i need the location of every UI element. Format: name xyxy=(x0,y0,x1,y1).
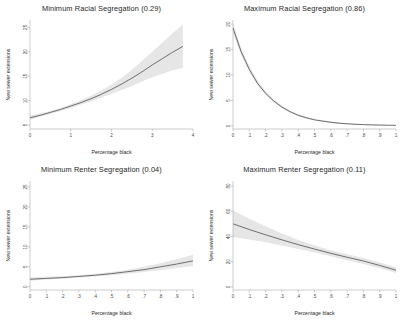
y-tick-label: 20 xyxy=(226,21,231,27)
x-tick-label: 1 xyxy=(69,133,72,138)
x-tick-label: .7 xyxy=(142,294,146,299)
plot-area: 0.1.2.3.4.5.6.7.8.9105101520Percentage b… xyxy=(203,0,406,161)
y-tick-label: 20 xyxy=(23,49,28,55)
x-tick-label: .1 xyxy=(44,294,48,299)
y-tick-label: 80 xyxy=(226,183,231,189)
x-tick-label: 0 xyxy=(29,294,32,299)
x-tick-label: .4 xyxy=(296,294,300,299)
y-axis-title: New sewer extensions xyxy=(5,48,11,100)
y-tick-label: 0 xyxy=(226,124,231,127)
confidence-band xyxy=(30,255,193,281)
x-tick-label: 0 xyxy=(232,294,235,299)
x-axis-title: Percentage black xyxy=(91,149,131,155)
x-tick-label: .2 xyxy=(61,294,65,299)
chart-panel-2: Minimum Renter Segregation (0.04)0.1.2.3… xyxy=(0,161,203,322)
x-tick-label: .7 xyxy=(345,133,349,138)
plot-area: 0.1.2.3.4.5.6.7.8.910510152025Percentage… xyxy=(0,161,203,322)
y-tick-label: 25 xyxy=(23,24,28,30)
x-tick-label: 0 xyxy=(232,133,235,138)
y-tick-label: 60 xyxy=(226,208,231,214)
four-panel-figure: Minimum Racial Segregation (0.29)0123451… xyxy=(0,0,406,322)
x-tick-label: .3 xyxy=(280,294,284,299)
x-tick-label: .1 xyxy=(247,294,251,299)
y-tick-label: 10 xyxy=(23,98,28,104)
x-tick-label: .1 xyxy=(247,133,251,138)
confidence-band xyxy=(30,24,183,119)
x-tick-label: .7 xyxy=(345,294,349,299)
y-tick-label: 20 xyxy=(226,259,231,265)
fit-line xyxy=(233,28,396,125)
x-tick-label: .5 xyxy=(313,133,317,138)
y-axis-title: New sewer extensions xyxy=(208,209,214,261)
x-tick-label: .3 xyxy=(280,133,284,138)
x-axis-title: Percentage black xyxy=(294,310,334,316)
x-tick-label: .9 xyxy=(378,294,382,299)
x-tick-label: .6 xyxy=(126,294,130,299)
y-tick-label: 20 xyxy=(23,204,28,210)
x-tick-label: .5 xyxy=(313,294,317,299)
chart-panel-0: Minimum Racial Segregation (0.29)0123451… xyxy=(0,0,203,161)
x-tick-label: .9 xyxy=(175,294,179,299)
x-tick-label: .6 xyxy=(329,294,333,299)
x-tick-label: .8 xyxy=(361,133,365,138)
x-tick-label: .8 xyxy=(361,294,365,299)
x-tick-label: 4 xyxy=(192,133,195,138)
y-tick-label: 0 xyxy=(226,285,231,288)
y-tick-label: 5 xyxy=(226,99,231,102)
x-axis-title: Percentage black xyxy=(294,149,334,155)
x-tick-label: .6 xyxy=(329,133,333,138)
confidence-band xyxy=(233,23,396,126)
y-tick-label: 15 xyxy=(226,47,231,53)
x-tick-label: .4 xyxy=(93,294,97,299)
y-tick-label: 5 xyxy=(23,265,28,268)
y-tick-label: 15 xyxy=(23,73,28,79)
y-tick-label: 10 xyxy=(226,72,231,78)
y-tick-label: 25 xyxy=(23,184,28,190)
plot-area: 0.1.2.3.4.5.6.7.8.91020406080Percentage … xyxy=(203,161,406,322)
y-tick-label: 40 xyxy=(226,233,231,239)
y-tick-label: 0 xyxy=(23,285,28,288)
x-tick-label: .3 xyxy=(77,294,81,299)
chart-panel-1: Maximum Racial Segregation (0.86)0.1.2.3… xyxy=(203,0,406,161)
plot-area: 01234510152025Percentage blackNew sewer … xyxy=(0,0,203,161)
x-tick-label: .8 xyxy=(158,294,162,299)
x-tick-label: .9 xyxy=(378,133,382,138)
x-tick-label: 1 xyxy=(395,133,398,138)
x-tick-label: 1 xyxy=(192,294,195,299)
x-tick-label: 3 xyxy=(151,133,154,138)
y-tick-label: 10 xyxy=(23,244,28,250)
y-axis-title: New sewer extensions xyxy=(208,48,214,100)
x-axis-title: Percentage black xyxy=(91,310,131,316)
x-tick-label: .5 xyxy=(110,294,114,299)
x-tick-label: .2 xyxy=(264,133,268,138)
chart-panel-3: Maximum Renter Segregation (0.11)0.1.2.3… xyxy=(203,161,406,322)
x-tick-label: .4 xyxy=(296,133,300,138)
x-tick-label: .2 xyxy=(264,294,268,299)
x-tick-label: 1 xyxy=(395,294,398,299)
y-tick-label: 5 xyxy=(23,123,28,126)
y-tick-label: 15 xyxy=(23,224,28,230)
x-tick-label: 0 xyxy=(29,133,32,138)
x-tick-label: 2 xyxy=(110,133,113,138)
y-axis-title: New sewer extensions xyxy=(5,209,11,261)
